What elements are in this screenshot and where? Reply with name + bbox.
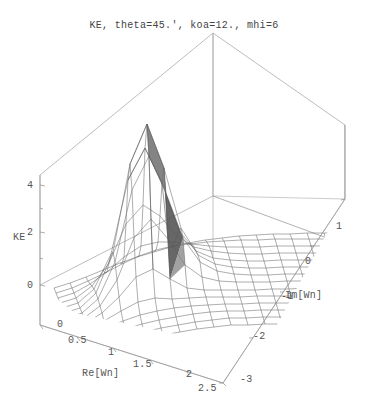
surface-plot-figure: KE, theta=45.', koa=12., mhi=6: [0, 0, 368, 414]
z-tick-0: 0: [27, 281, 33, 291]
y-axis-label: Im[Wn]: [285, 291, 322, 301]
y-tick-0: 0: [305, 257, 311, 267]
x-tick-0p5: 0.5: [68, 336, 87, 346]
z-tick-4: 4: [27, 181, 33, 191]
y-tick-neg2: -2: [253, 332, 265, 342]
x-tick-2p5: 2.5: [198, 384, 217, 394]
x-tick-1: 1: [108, 348, 114, 358]
z-tick-2: 2: [27, 228, 33, 238]
surface-mesh: [54, 124, 367, 353]
vertical-reference-lines: [213, 33, 345, 258]
z-axis-ticks: [40, 185, 45, 286]
y-tick-1: 1: [336, 222, 342, 232]
x-axis-label: Re[Wn]: [82, 369, 119, 379]
plot-canvas: [0, 0, 368, 414]
surface-wireframe-far: [213, 196, 345, 245]
x-tick-1p5: 1.5: [133, 360, 152, 370]
z-axis-label: KE: [13, 233, 25, 243]
x-tick-2: 2: [186, 370, 192, 380]
bounding-box: [40, 33, 345, 383]
x-tick-0: 0: [57, 320, 63, 330]
y-tick-neg3: -3: [240, 375, 252, 385]
